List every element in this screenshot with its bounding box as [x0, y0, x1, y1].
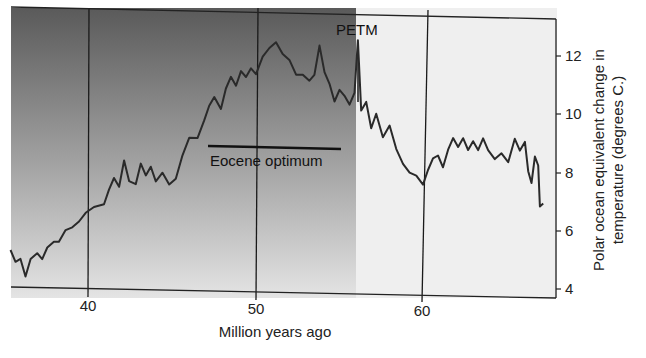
eocene-optimum-label: Eocene optimum: [210, 152, 323, 169]
y-tick-8: 8: [565, 164, 573, 181]
y-axis-title-line2: temperature (degrees C.): [609, 76, 626, 244]
y-tick-6: 6: [565, 222, 573, 239]
temperature-chart: 12 10 8 6 4 40 50 60 Million years ago P…: [0, 0, 646, 358]
x-axis-title: Million years ago: [219, 323, 332, 340]
x-tick-40: 40: [80, 297, 97, 314]
x-tick-50: 50: [248, 300, 265, 317]
y-tick-10: 10: [565, 105, 582, 122]
y-tick-12: 12: [565, 47, 582, 64]
petm-label: PETM: [336, 21, 378, 38]
x-tick-60: 60: [414, 302, 431, 319]
y-tick-4: 4: [565, 280, 573, 297]
y-axis-title-line1: Polar ocean equivalent change in: [590, 49, 607, 271]
